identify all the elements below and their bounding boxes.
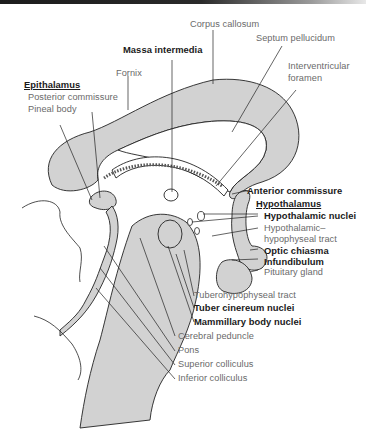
label-interventricular-1: Interventricular — [288, 61, 350, 72]
label-pineal-body: Pineal body — [28, 104, 77, 115]
label-hypothalamus: Hypothalamus — [256, 198, 321, 209]
mammillary-body-shape — [158, 220, 182, 248]
label-cerebral-peduncle: Cerebral peduncle — [178, 331, 254, 342]
label-tuber-cinereum-nuclei: Tuber cinereum nuclei — [194, 302, 294, 313]
label-inferior-colliculus: Inferior colliculus — [178, 373, 247, 384]
label-corpus-callosum: Corpus callosum — [190, 19, 259, 30]
label-massa-intermedia: Massa intermedia — [123, 44, 202, 55]
label-posterior-commissure: Posterior commissure — [28, 92, 118, 103]
label-pituitary-gland: Pituitary gland — [264, 267, 323, 278]
label-septum-pellucidum: Septum pellucidum — [256, 33, 335, 44]
label-tuberohypophyseal-tract: Tuberohypophyseal tract — [194, 290, 296, 301]
label-epithalamus: Epithalamus — [24, 79, 80, 90]
label-hh-tract-2: hypophyseal tract — [264, 234, 337, 245]
massa-intermedia-shape — [164, 189, 178, 201]
label-infundibulum: Infundibulum — [264, 256, 324, 267]
cerebellum-outline — [22, 201, 81, 380]
label-fornix: Fornix — [116, 68, 142, 79]
label-interventricular-2: foramen — [288, 73, 322, 84]
label-hypothalamic-nuclei: Hypothalamic nuclei — [264, 210, 356, 221]
brainstem-shape — [80, 214, 200, 428]
label-mammillary-body-nuclei: Mammillary body nuclei — [194, 316, 301, 327]
label-anterior-commissure: Anterior commissure — [247, 185, 342, 196]
label-superior-colliculus: Superior colliculus — [178, 359, 254, 370]
label-hh-tract-1: Hypothalamic– — [264, 223, 325, 234]
label-optic-chiasma: Optic chiasma — [264, 245, 329, 256]
label-pons: Pons — [178, 345, 199, 356]
